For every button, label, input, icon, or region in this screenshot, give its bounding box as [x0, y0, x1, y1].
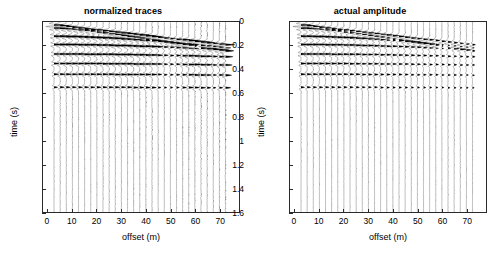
y-tick-label: 1 [204, 136, 244, 146]
seismic-trace-fill [307, 25, 315, 208]
seismic-trace-line [92, 22, 107, 212]
seismic-trace-line [451, 22, 459, 212]
seismic-figure: normalized traces time (s) offset (m) 00… [0, 0, 493, 258]
seismic-trace-fill [97, 22, 106, 211]
seismic-trace-fill [424, 25, 432, 212]
y-tick-mark [289, 141, 293, 142]
seismic-trace-fill [417, 24, 426, 212]
seismic-trace-fill [393, 22, 399, 212]
y-tick-label: 0.4 [204, 64, 244, 74]
seismic-trace-fill [411, 23, 420, 212]
seismic-trace-line [412, 22, 427, 212]
seismic-trace-fill [128, 22, 137, 209]
seismic-trace-line [293, 22, 311, 212]
x-tick-mark [418, 209, 419, 213]
seismic-trace-fill [189, 22, 198, 212]
y-tick-label: 1.6 [204, 208, 244, 218]
panel-normalized-traces: normalized traces time (s) offset (m) 00… [0, 0, 246, 258]
x-tick-mark [96, 209, 97, 213]
y-tick-mark [289, 165, 293, 166]
y-axis-label: time (s) [256, 92, 266, 152]
x-tick-mark [442, 209, 443, 213]
seismic-trace-line [61, 22, 76, 212]
seismic-trace-fill [368, 22, 374, 212]
seismic-trace-line [132, 22, 150, 212]
seismic-trace-fill [381, 22, 387, 211]
y-tick-mark [289, 213, 293, 214]
y-tick-mark [42, 189, 46, 190]
wiggle-plot-actual [290, 22, 486, 212]
seismic-trace-line [98, 22, 113, 212]
seismic-trace-line [352, 22, 363, 212]
x-tick-mark [195, 209, 196, 213]
y-tick-label: 0 [204, 16, 244, 26]
y-tick-mark [42, 141, 46, 142]
seismic-trace-fill [442, 22, 446, 212]
seismic-trace-fill [170, 23, 179, 211]
y-tick-mark [42, 69, 46, 70]
x-tick-mark [393, 209, 394, 213]
seismic-trace-fill [362, 22, 369, 210]
seismic-trace-fill [387, 22, 393, 211]
y-tick-mark [289, 69, 293, 70]
y-tick-label: 0.2 [204, 40, 244, 50]
x-axis-label: offset (m) [289, 232, 487, 242]
seismic-trace-fill [115, 22, 124, 210]
panel-actual-amplitude: actual amplitude time (s) offset (m) 00.… [247, 0, 493, 258]
seismic-trace-line [445, 22, 452, 212]
seismic-trace-line [170, 22, 186, 212]
plot-area-actual [289, 21, 487, 213]
x-tick-mark [47, 209, 48, 213]
seismic-trace-fill [460, 23, 466, 211]
y-tick-mark [289, 189, 293, 190]
y-tick-label: 1.4 [204, 184, 244, 194]
seismic-trace-line [85, 22, 100, 212]
seismic-trace-fill [109, 22, 118, 210]
y-tick-mark [42, 93, 46, 94]
y-tick-mark [42, 213, 46, 214]
y-tick-label: 1.2 [204, 160, 244, 170]
seismic-trace-line [126, 22, 143, 212]
seismic-trace-line [151, 22, 168, 212]
seismic-trace-fill [91, 22, 100, 209]
panel-title: normalized traces [0, 6, 246, 16]
x-tick-mark [467, 209, 468, 213]
seismic-trace-line [113, 22, 131, 212]
seismic-trace-line [400, 22, 413, 212]
seismic-trace-line [363, 22, 375, 212]
seismic-trace-fill [326, 22, 334, 212]
seismic-trace-line [346, 22, 357, 212]
seismic-trace-fill [332, 22, 340, 212]
x-tick-mark [294, 209, 295, 213]
seismic-trace-fill [54, 24, 63, 211]
seismic-trace-line [418, 22, 431, 212]
seismic-trace-line [405, 22, 420, 212]
y-axis-label: time (s) [9, 92, 19, 152]
seismic-trace-line [382, 22, 393, 212]
seismic-trace-fill [103, 23, 112, 208]
seismic-trace-fill [448, 22, 452, 212]
y-tick-mark [42, 117, 46, 118]
seismic-trace-line [457, 22, 466, 212]
y-tick-mark [289, 117, 293, 118]
seismic-trace-line [357, 22, 369, 212]
seismic-trace-line [103, 22, 118, 212]
y-tick-label: 0.8 [204, 112, 244, 122]
seismic-trace-line [432, 22, 440, 212]
seismic-trace-fill [60, 25, 70, 209]
seismic-trace-fill [177, 22, 186, 209]
seismic-trace-fill [313, 22, 321, 212]
seismic-trace-fill [158, 26, 167, 212]
y-tick-label: 0.6 [204, 88, 244, 98]
y-tick-mark [42, 21, 46, 22]
seismic-trace-line [438, 22, 446, 212]
seismic-trace-line [388, 22, 399, 212]
x-tick-mark [343, 209, 344, 213]
seismic-trace-fill [375, 22, 381, 212]
x-tick-mark [121, 209, 122, 213]
seismic-trace-line [175, 22, 192, 212]
x-tick-mark [368, 209, 369, 213]
seismic-trace-fill [140, 23, 149, 210]
seismic-trace-fill [134, 24, 143, 212]
seismic-trace-line [46, 22, 64, 212]
